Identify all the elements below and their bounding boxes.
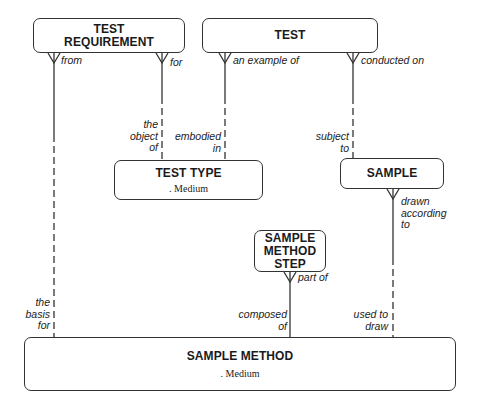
relationship-label: conducted on [361,55,424,67]
label-line: to [401,219,447,231]
relationship-label: from [61,55,82,67]
label-line: subject [316,131,349,143]
label-line: the [25,297,50,309]
label-line: composed [239,309,287,321]
relationship-label: an example of [233,55,299,67]
entity-name: METHOD [264,245,317,258]
relationship-label-drawn-according-to: drawn according to [401,196,447,231]
entity-sample-method[interactable]: SAMPLE METHOD . Medium [24,337,456,391]
entity-test[interactable]: TEST [202,18,378,53]
label-line: used to [354,309,388,321]
relationship-label-composed-of: composed of [239,309,287,332]
entity-sample[interactable]: SAMPLE [340,158,444,189]
label-line: drawn [401,196,447,208]
entity-sample-method-step[interactable]: SAMPLE METHOD STEP [254,230,326,272]
entity-name: SAMPLE [265,232,316,245]
label-line: of [130,142,158,154]
label-line: to [316,143,349,155]
relationship-label: part of [298,272,328,284]
label-line: embodied [175,131,221,143]
entity-name: TEST TYPE [155,167,221,180]
entity-test-requirement[interactable]: TEST REQUIREMENT [33,18,185,53]
entity-test-type[interactable]: TEST TYPE . Medium [114,160,263,200]
entity-name: SAMPLE METHOD [187,350,294,363]
entity-name: TEST [274,29,305,42]
entity-attribute: . Medium [169,183,208,194]
label-line: draw [354,321,388,333]
relationship-label-subject-to: subject to [316,131,349,154]
relationship-drawn-according-to-used-to-draw [387,189,399,337]
entity-name: STEP [274,258,306,271]
relationship-label-the-object-of: the object of [130,119,158,154]
entity-name: SAMPLE [367,167,418,180]
entity-attribute: . Medium [221,368,260,379]
entity-name: REQUIREMENT [64,36,154,49]
entity-name: TEST [93,23,124,36]
relationship-label: for [170,57,182,69]
relationship-label-the-basis-for: the basis for [25,297,50,332]
relationship-label-embodied-in: embodied in [175,131,221,154]
label-line: of [239,321,287,333]
label-line: in [175,143,221,155]
label-line: for [25,320,50,332]
relationship-from-basis-for [48,53,60,337]
relationship-label-used-to-draw: used to draw [354,309,388,332]
label-line: the [130,119,158,131]
